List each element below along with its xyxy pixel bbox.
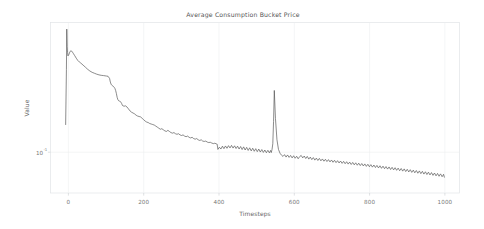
x-tick-label-800: 800 <box>364 199 375 205</box>
chart-title: Average Consumption Bucket Price <box>186 11 299 19</box>
x-tick-label-1000: 1000 <box>438 199 453 205</box>
x-tick-label-400: 400 <box>214 199 225 205</box>
x-axis-label: Timesteps <box>238 210 271 218</box>
y-tick-exponent: -1 <box>43 147 47 152</box>
x-tick-label-600: 600 <box>289 199 300 205</box>
chart-figure: Average Consumption Bucket Price <box>0 0 484 229</box>
y-axis-label: Value <box>23 99 30 116</box>
figure-background <box>0 0 484 229</box>
chart-canvas: Average Consumption Bucket Price <box>0 0 484 229</box>
y-tick-mantissa: 10 <box>36 150 44 156</box>
x-tick-label-200: 200 <box>138 199 149 205</box>
x-tick-label-0: 0 <box>67 199 71 205</box>
